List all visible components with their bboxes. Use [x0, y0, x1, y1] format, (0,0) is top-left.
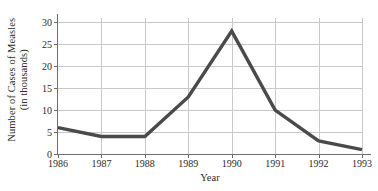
y-tick-label: 10 [42, 105, 52, 116]
x-tick-label: 1993 [352, 158, 372, 169]
data-series-layer [58, 18, 362, 154]
measles-line-series [58, 31, 362, 149]
y-axis-title-line2: (in thousands) [18, 18, 30, 142]
x-tick-label: 1988 [135, 158, 155, 169]
y-tick-label: 15 [42, 83, 52, 94]
y-axis-title: Number of Cases of Measles (in thousands… [0, 0, 36, 160]
x-tick-label: 1989 [178, 158, 198, 169]
x-tick-label: 1990 [222, 158, 242, 169]
y-axis-title-line1: Number of Cases of Measles [6, 18, 18, 142]
x-axis-title: Year [58, 172, 362, 183]
measles-line-chart-figure: Number of Cases of Measles (in thousands… [0, 0, 378, 191]
y-tick-label: 25 [42, 39, 52, 50]
plot-area: 051015202530 198619871988198919901991199… [58, 18, 362, 154]
x-tick-label: 1987 [91, 158, 111, 169]
x-tick-label: 1991 [265, 158, 285, 169]
x-tick-label: 1986 [48, 158, 68, 169]
x-tick-label: 1992 [309, 158, 329, 169]
gridline-vertical [362, 18, 363, 154]
y-tick-label: 20 [42, 61, 52, 72]
y-tick-label: 30 [42, 17, 52, 28]
y-tick-label: 5 [47, 127, 52, 138]
